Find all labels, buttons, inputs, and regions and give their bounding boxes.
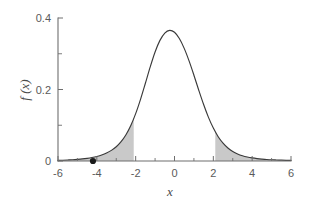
point-marker-observed-value (90, 158, 96, 164)
x-tick-label-4: 4 (249, 167, 255, 179)
density-curve-group (58, 30, 291, 160)
shaded-tail-regions (58, 118, 291, 161)
x-tick-label--4: -4 (92, 167, 102, 179)
density-plot: -6-4-2024600.20.4 x f (x) (0, 0, 313, 207)
y-tick-label-0.2: 0.2 (36, 84, 51, 96)
y-tick-label-0: 0 (45, 155, 51, 167)
x-tick-label-0: 0 (171, 167, 177, 179)
point-markers-group (90, 158, 96, 164)
y-tick-label-0.4: 0.4 (36, 12, 51, 24)
x-tick-label-6: 6 (288, 167, 294, 179)
x-axis-title: x (166, 184, 173, 199)
x-tick-label--6: -6 (53, 167, 63, 179)
tick-labels-group: -6-4-2024600.20.4 (36, 12, 294, 179)
x-tick-label-2: 2 (210, 167, 216, 179)
y-axis-title: f (x) (17, 79, 32, 100)
density-curve (58, 30, 291, 160)
chart-figure: -6-4-2024600.20.4 x f (x) (0, 0, 313, 207)
axes-group (58, 18, 291, 161)
x-tick-label--2: -2 (131, 167, 141, 179)
